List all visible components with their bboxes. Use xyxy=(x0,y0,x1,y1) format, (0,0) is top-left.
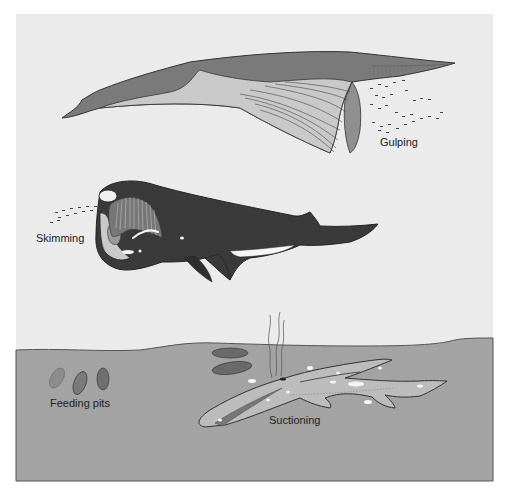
label-feeding-pits: Feeding pits xyxy=(50,397,110,409)
label-suctioning: Suctioning xyxy=(269,414,320,426)
feeding-illustration xyxy=(0,0,508,492)
skimming-whale xyxy=(96,181,378,282)
label-skimming: Skimming xyxy=(36,232,84,244)
krill-swarm-gulping xyxy=(370,80,443,133)
label-gulping: Gulping xyxy=(380,136,418,148)
